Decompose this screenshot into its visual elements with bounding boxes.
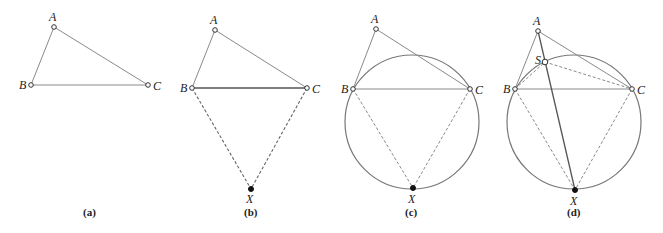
circumcircle-BCX — [507, 55, 641, 189]
segment-AC — [54, 27, 148, 85]
panel-b: A B C X (b) — [180, 13, 321, 219]
point-X — [411, 186, 416, 191]
segment-BX — [353, 89, 413, 188]
panel-d: A S B C X (d) — [503, 14, 646, 219]
segment-CX — [251, 88, 307, 189]
point-B — [29, 83, 34, 88]
point-C — [468, 87, 473, 92]
segment-BX — [515, 89, 575, 190]
segment-AB — [31, 27, 54, 85]
label-S: S — [535, 53, 541, 67]
panel-c: A B C X (c) — [341, 12, 484, 219]
label-B: B — [503, 82, 511, 96]
point-A — [52, 25, 57, 30]
segment-SC — [545, 62, 632, 89]
circumcircle-BCX — [345, 55, 479, 189]
label-X: X — [245, 192, 254, 206]
point-B — [513, 87, 518, 92]
label-A: A — [370, 12, 379, 26]
segment-CX — [575, 89, 632, 190]
point-A — [213, 28, 218, 33]
point-C — [305, 86, 310, 91]
label-C: C — [637, 83, 646, 97]
segment-CX — [413, 89, 470, 188]
label-A: A — [48, 10, 57, 24]
label-A: A — [532, 14, 541, 28]
segment-AB — [353, 29, 376, 89]
point-S — [542, 59, 548, 65]
label-A: A — [209, 13, 218, 27]
caption-d: (d) — [567, 206, 581, 219]
point-B — [190, 86, 195, 91]
label-C: C — [475, 83, 484, 97]
figure-canvas: A B C (a) A B C X (b) A B C X (c) — [0, 0, 663, 233]
segment-AB — [192, 30, 215, 88]
panel-a: A B C (a) — [19, 10, 162, 219]
label-B: B — [180, 81, 188, 95]
label-B: B — [341, 82, 349, 96]
caption-a: (a) — [83, 206, 96, 219]
point-B — [351, 87, 356, 92]
point-A — [536, 29, 541, 34]
segment-AC — [215, 30, 307, 88]
point-X — [249, 187, 254, 192]
point-C — [630, 87, 635, 92]
segment-BX — [192, 88, 251, 189]
caption-b: (b) — [244, 206, 258, 219]
geometry-figure: A B C (a) A B C X (b) A B C X (c) — [0, 0, 663, 233]
caption-c: (c) — [405, 206, 418, 219]
label-X: X — [407, 192, 416, 206]
label-C: C — [312, 82, 321, 96]
segment-AC — [538, 31, 632, 89]
label-C: C — [153, 79, 162, 93]
point-A — [374, 27, 379, 32]
point-C — [146, 83, 151, 88]
point-X — [573, 188, 578, 193]
label-B: B — [19, 78, 27, 92]
